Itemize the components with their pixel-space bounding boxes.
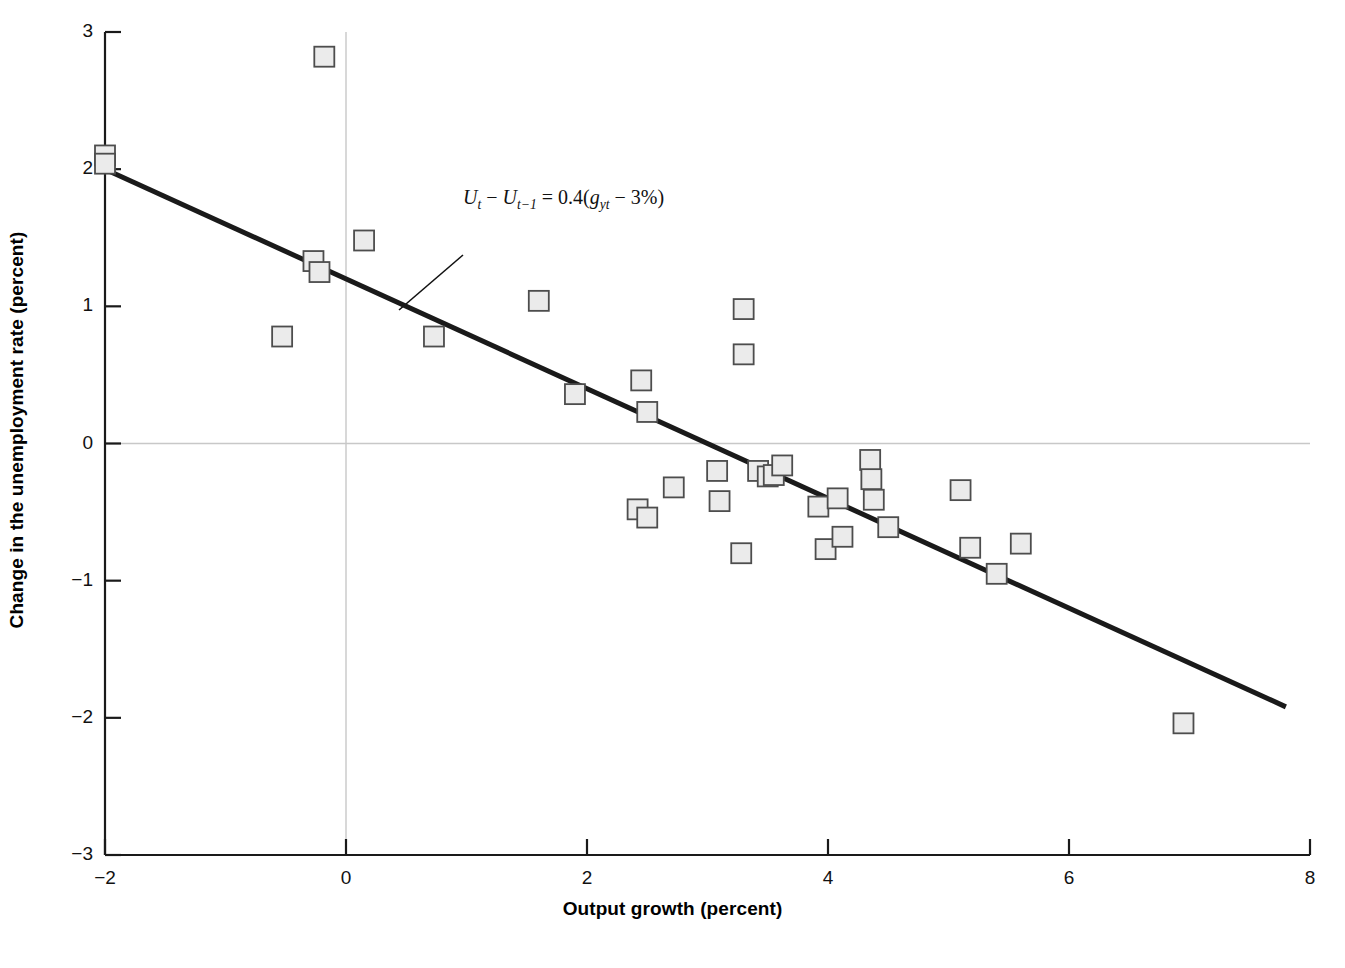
x-tick-label: 6 <box>1039 867 1099 889</box>
data-point-marker <box>424 327 444 347</box>
data-point-marker <box>960 538 980 558</box>
data-point-marker <box>710 491 730 511</box>
annotation-leader-line <box>399 255 463 310</box>
equation-minus: − <box>481 186 502 208</box>
y-tick-label: 2 <box>43 157 93 179</box>
data-point-marker <box>272 327 292 347</box>
regression-fit-line <box>105 169 1286 707</box>
y-tick-label: −2 <box>43 706 93 728</box>
data-point-marker <box>1173 713 1193 733</box>
data-point-marker <box>861 469 881 489</box>
y-tick-label: −1 <box>43 569 93 591</box>
equation-g: g <box>590 186 600 208</box>
data-point-marker <box>951 480 971 500</box>
data-point-marker <box>828 488 848 508</box>
data-point-marker <box>1011 534 1031 554</box>
equation-sub-t-minus-1: t−1 <box>517 197 537 212</box>
data-point-marker <box>637 508 657 528</box>
data-point-marker <box>565 384 585 404</box>
data-point-marker <box>314 47 334 67</box>
equation-tail: − 3%) <box>609 186 664 208</box>
y-tick-label: 3 <box>43 20 93 42</box>
regression-equation-annotation: Ut − Ut−1 = 0.4(gyt − 3%) <box>463 186 664 213</box>
x-tick-label: 4 <box>798 867 858 889</box>
data-point-marker <box>832 527 852 547</box>
data-point-marker <box>808 497 828 517</box>
x-tick-label: 8 <box>1280 867 1340 889</box>
data-point-markers <box>95 47 1193 734</box>
x-tick-label: 0 <box>316 867 376 889</box>
equation-u-t: U <box>463 186 477 208</box>
data-point-marker <box>354 230 374 250</box>
data-point-marker <box>734 299 754 319</box>
data-point-marker <box>731 543 751 563</box>
scatter-plot-canvas <box>0 0 1345 968</box>
equation-u-t1: U <box>503 186 517 208</box>
data-point-marker <box>529 291 549 311</box>
data-point-marker <box>734 344 754 364</box>
data-point-marker <box>95 154 115 174</box>
data-point-marker <box>860 450 880 470</box>
data-point-marker <box>864 490 884 510</box>
chart-figure: −202468 −3−2−10123 Output growth (percen… <box>0 0 1345 968</box>
data-point-marker <box>707 461 727 481</box>
y-tick-label: 1 <box>43 294 93 316</box>
equation-equals-coefficient: = 0.4( <box>537 186 590 208</box>
y-axis-title: Change in the unemployment rate (percent… <box>0 0 34 860</box>
x-axis-title: Output growth (percent) <box>0 898 1345 920</box>
data-point-marker <box>631 370 651 390</box>
x-tick-label: 2 <box>557 867 617 889</box>
y-tick-label: −3 <box>43 843 93 865</box>
x-tick-label: −2 <box>75 867 135 889</box>
y-tick-label: 0 <box>43 432 93 454</box>
data-point-marker <box>664 477 684 497</box>
data-point-marker <box>309 262 329 282</box>
equation-g-sub: yt <box>600 197 610 212</box>
data-point-marker <box>772 455 792 475</box>
data-point-marker <box>987 564 1007 584</box>
data-point-marker <box>637 402 657 422</box>
data-point-marker <box>878 517 898 537</box>
